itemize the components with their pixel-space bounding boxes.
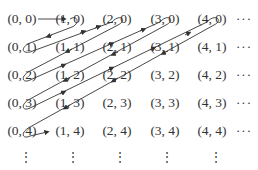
pair-3-1: (3, 1) (150, 39, 179, 55)
pair-0-2: (0, 2) (7, 67, 36, 83)
pair-4-3: (4, 3) (197, 95, 226, 111)
pair-4-4: (4, 4) (197, 123, 226, 139)
col-3-continuation: ⋮ (161, 155, 173, 160)
pair-1-4: (1, 4) (55, 123, 84, 139)
zigzag-diagram: (0, 0) (1, 0) (2, 0) (3, 0) (4, 0) ··· (… (0, 0, 258, 170)
pair-0-4: (0, 4) (7, 123, 36, 139)
pair-1-3: (1, 3) (55, 95, 84, 111)
pair-3-2: (3, 2) (150, 67, 179, 83)
col-0-continuation: ⋮ (20, 155, 32, 160)
col-2-continuation: ⋮ (114, 155, 126, 160)
pair-0-0: (0, 0) (7, 11, 36, 27)
pair-2-2: (2, 2) (102, 67, 131, 83)
pair-3-4: (3, 4) (150, 123, 179, 139)
row-2-continuation: ··· (236, 67, 252, 83)
pair-4-2: (4, 2) (197, 67, 226, 83)
pair-2-0: (2, 0) (102, 11, 131, 27)
pair-3-0: (3, 0) (150, 11, 179, 27)
pair-1-2: (1, 2) (55, 67, 84, 83)
pair-4-0: (4, 0) (197, 11, 226, 27)
pair-0-3: (0, 3) (7, 95, 36, 111)
pair-3-3: (3, 3) (150, 95, 179, 111)
pair-2-4: (2, 4) (102, 123, 131, 139)
col-1-continuation: ⋮ (67, 155, 79, 160)
pair-0-1: (0, 1) (7, 39, 36, 55)
pair-2-1: (2, 1) (102, 39, 131, 55)
pair-1-0: (1, 0) (55, 11, 84, 27)
row-3-continuation: ··· (236, 95, 252, 111)
pair-2-3: (2, 3) (102, 95, 131, 111)
row-4-continuation: ··· (236, 123, 252, 139)
pair-1-1: (1, 1) (55, 39, 84, 55)
pair-4-1: (4, 1) (197, 39, 226, 55)
col-4-continuation: ⋮ (210, 155, 222, 160)
row-1-continuation: ··· (236, 39, 252, 55)
row-0-continuation: ··· (236, 11, 252, 27)
